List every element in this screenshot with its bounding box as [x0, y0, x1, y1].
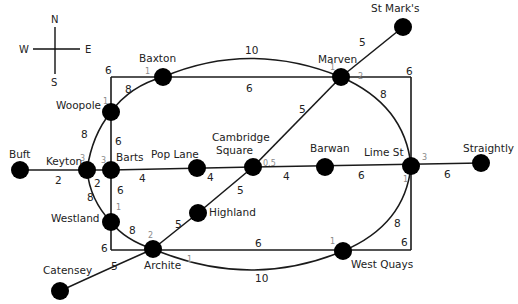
station-label-buft: Buft — [9, 148, 31, 160]
weight-label: 6 — [115, 135, 122, 147]
station-node-marven[interactable] — [332, 68, 350, 86]
weight-label: 8 — [125, 83, 132, 95]
weight-label: 6 — [117, 184, 124, 196]
station-node-westland[interactable] — [102, 213, 120, 231]
station-node-pop-lane[interactable] — [188, 159, 206, 177]
penalty-label: 2 — [358, 72, 363, 81]
penalty-label: 0.5 — [263, 159, 276, 168]
station-node-barwan[interactable] — [316, 158, 334, 176]
edge-keyton-woopole-arc — [87, 112, 111, 170]
weight-label: 6 — [255, 237, 262, 249]
station-node-west-quays[interactable] — [334, 242, 352, 260]
edge-marven-stmarks — [341, 27, 403, 77]
station-label-barts: Barts — [116, 151, 144, 163]
station-node-woopole[interactable] — [102, 103, 120, 121]
edge-cambridge-straightly — [253, 163, 481, 167]
weight-label: 6 — [358, 169, 365, 181]
station-node-baxton[interactable] — [154, 68, 172, 86]
compass-east-label: E — [85, 44, 91, 55]
penalty-label: 1 — [116, 203, 121, 212]
transit-network-diagram: N S E W 10 6 — [0, 0, 518, 304]
station-node-highland[interactable] — [189, 204, 207, 222]
station-label-archite: Archite — [144, 259, 181, 271]
compass-west-label: W — [19, 44, 29, 55]
edge-woopole-baxton-arc — [111, 77, 163, 112]
weight-label: 5 — [237, 184, 244, 196]
weight-label: 8 — [129, 224, 136, 236]
penalty-label: 2 — [148, 231, 153, 240]
station-label-keyton: Keyton — [46, 155, 82, 167]
station-node-archite[interactable] — [144, 240, 162, 258]
weight-label: 2 — [55, 174, 62, 186]
weight-label: 8 — [87, 191, 94, 203]
station-node-catensey[interactable] — [51, 282, 69, 300]
edge-barts-cambridge — [111, 167, 253, 170]
weight-label: 2 — [94, 177, 101, 189]
station-node-lime-st[interactable] — [402, 157, 420, 175]
weight-label: 10 — [245, 44, 258, 56]
station-label-pop-lane: Pop Lane — [151, 148, 199, 160]
weight-label: 5 — [359, 36, 366, 48]
station-label-highland: Highland — [209, 206, 256, 218]
station-node-buft[interactable] — [11, 161, 29, 179]
station-label-lime-st: Lime St — [364, 146, 404, 158]
station-label-cambridge-square-line1: Cambridge — [212, 131, 270, 143]
station-label-woopole: Woopole — [56, 99, 101, 111]
compass-south-label: S — [51, 77, 57, 88]
weight-label: 4 — [139, 172, 146, 184]
weight-label: 5 — [299, 103, 306, 115]
station-label-baxton: Baxton — [139, 52, 176, 64]
weight-label: 4 — [207, 171, 214, 183]
station-node-straightly[interactable] — [472, 154, 490, 172]
penalty-label: 3 — [422, 153, 427, 162]
compass-rose-icon: N S E W — [19, 14, 91, 88]
edge-westquays-archite-arc — [153, 249, 343, 270]
station-label-catensey: Catensey — [43, 264, 92, 276]
weight-label: 8 — [394, 217, 401, 229]
penalty-label: 1 — [330, 237, 335, 246]
station-label-westland: Westland — [51, 212, 100, 224]
weight-label: 6 — [444, 168, 451, 180]
station-label-straightly: Straightly — [463, 142, 514, 154]
station-label-st-marks: St Mark's — [371, 2, 419, 14]
weight-label: 6 — [406, 65, 413, 77]
station-label-barwan: Barwan — [310, 142, 350, 154]
weight-label: 6 — [401, 236, 408, 248]
weight-label: 10 — [255, 272, 268, 284]
weight-label: 5 — [175, 218, 182, 230]
edge-baxton-marven-arc — [163, 59, 341, 78]
penalty-label: 1 — [403, 175, 408, 184]
penalty-label: 1 — [187, 255, 192, 264]
weight-label: 6 — [105, 64, 112, 76]
station-label-marven: Marven — [318, 53, 357, 65]
station-node-st-marks[interactable] — [394, 18, 412, 36]
weight-label: 6 — [246, 82, 253, 94]
station-label-cambridge-square-line2: Square — [216, 144, 253, 156]
station-node-barts[interactable] — [102, 161, 120, 179]
weight-label: 5 — [111, 260, 118, 272]
weight-label: 6 — [101, 242, 108, 254]
weight-label: 8 — [380, 88, 387, 100]
penalty-label: 1 — [145, 67, 150, 76]
compass-north-label: N — [51, 14, 58, 25]
weight-label: 4 — [283, 170, 290, 182]
weight-label: 8 — [81, 128, 88, 140]
station-node-cambridge-square[interactable] — [244, 158, 262, 176]
station-label-west-quays: West Quays — [351, 258, 413, 270]
